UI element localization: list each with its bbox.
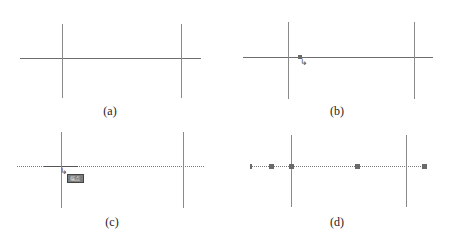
grip-midpoint[interactable] xyxy=(355,164,360,169)
grip-point-1[interactable] xyxy=(269,164,274,169)
vertical-line-left xyxy=(291,135,292,207)
panel-d: (d) xyxy=(0,0,449,238)
vertical-line-right xyxy=(406,135,407,207)
grip-end[interactable] xyxy=(422,164,427,169)
caption-d: (d) xyxy=(322,215,352,230)
grip-start-tick[interactable] xyxy=(250,164,252,169)
selected-horizontal-line[interactable] xyxy=(251,166,427,167)
grip-point-2[interactable] xyxy=(289,164,294,169)
